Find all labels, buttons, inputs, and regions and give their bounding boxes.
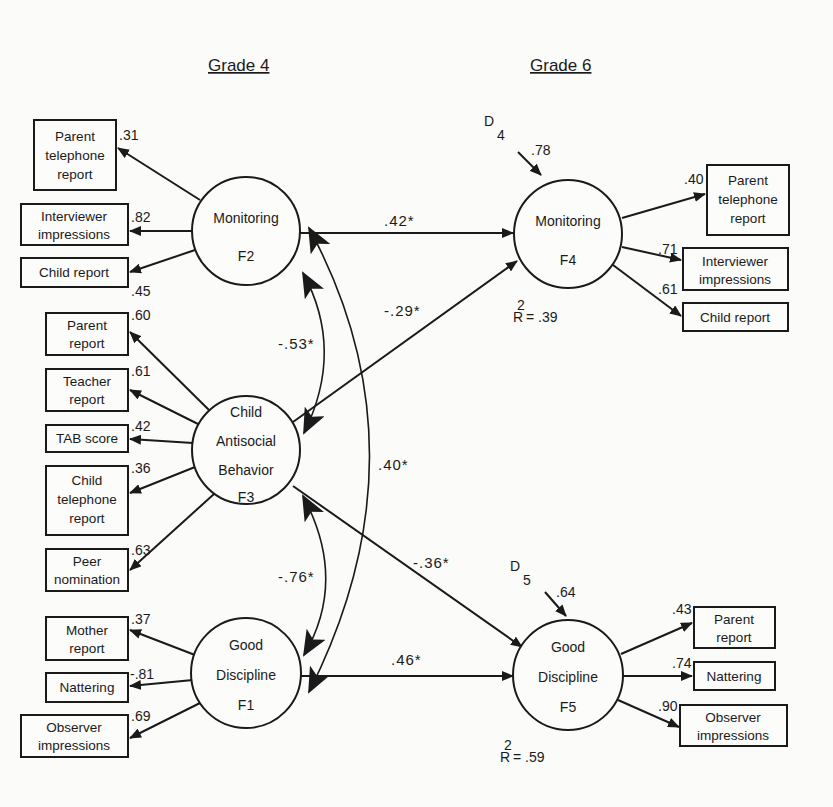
svg-text:.61: .61 <box>658 281 678 297</box>
svg-text:2: 2 <box>504 737 512 753</box>
svg-text:D: D <box>510 558 520 574</box>
indicator-f2-interviewer: Interviewer impressions <box>21 204 128 245</box>
svg-text:Child report: Child report <box>39 265 109 280</box>
header-grade-4: Grade 4 <box>208 56 269 75</box>
svg-text:D: D <box>484 113 494 129</box>
indicator-f5-observer: Observer impressions <box>680 705 787 746</box>
svg-text:4: 4 <box>497 127 505 143</box>
svg-text:report: report <box>716 630 752 645</box>
svg-text:F1: F1 <box>238 697 255 713</box>
svg-text:.74: .74 <box>672 655 692 671</box>
svg-text:.31: .31 <box>119 127 139 143</box>
svg-text:.43: .43 <box>672 601 692 617</box>
svg-text:.36: .36 <box>131 460 151 476</box>
corr-coef-f3-f1: -.76* <box>278 568 315 585</box>
corr-coef-f2-f1: .40* <box>378 456 409 473</box>
indicator-f3-parent-report: Parent report <box>46 313 128 355</box>
correlation-arcs <box>303 228 370 692</box>
svg-text:telephone: telephone <box>57 492 116 507</box>
indicator-f4-parent-telephone: Parent telephone report <box>707 165 789 235</box>
r-squared-f4: R 2 = .39 <box>513 297 558 325</box>
svg-text:.63: .63 <box>131 542 151 558</box>
svg-text:.69: .69 <box>131 708 151 724</box>
svg-text:2: 2 <box>517 297 525 313</box>
svg-text:Interviewer: Interviewer <box>41 209 108 224</box>
svg-text:F5: F5 <box>560 699 577 715</box>
svg-text:impressions: impressions <box>38 738 110 753</box>
svg-text:Monitoring: Monitoring <box>535 213 600 229</box>
svg-text:Parent: Parent <box>67 318 107 333</box>
svg-text:.40: .40 <box>684 171 704 187</box>
svg-text:Child: Child <box>230 404 262 420</box>
svg-text:Child report: Child report <box>700 310 770 325</box>
header-grade-6: Grade 6 <box>530 56 591 75</box>
svg-text:report: report <box>69 336 105 351</box>
structural-paths <box>293 233 522 676</box>
svg-text:Good: Good <box>551 639 585 655</box>
svg-text:report: report <box>730 211 766 226</box>
svg-text:report: report <box>69 511 105 526</box>
svg-text:report: report <box>69 641 105 656</box>
svg-text:Nattering: Nattering <box>707 669 762 684</box>
indicator-f1-mother-report: Mother report <box>46 617 128 660</box>
svg-text:F2: F2 <box>238 248 255 264</box>
svg-text:F3: F3 <box>238 489 255 505</box>
svg-text:Antisocial: Antisocial <box>216 433 276 449</box>
svg-text:Discipline: Discipline <box>538 669 598 685</box>
sem-path-diagram: Grade 4 Grade 6 Parent telephone report … <box>0 0 833 807</box>
svg-text:nomination: nomination <box>54 572 120 587</box>
svg-text:.82: .82 <box>131 209 151 225</box>
r-squared-f5: R 2 = .59 <box>500 737 545 765</box>
svg-text:impressions: impressions <box>38 227 110 242</box>
indicator-f3-peer-nomination: Peer nomination <box>46 549 128 591</box>
svg-text:.42: .42 <box>131 418 151 434</box>
svg-text:Peer: Peer <box>73 554 102 569</box>
svg-text:Discipline: Discipline <box>216 667 276 683</box>
svg-text:-.81: -.81 <box>130 666 154 682</box>
svg-text:telephone: telephone <box>45 148 104 163</box>
svg-text:Mother: Mother <box>66 623 109 638</box>
indicator-f4-interviewer: Interviewer impressions <box>683 248 788 290</box>
svg-text:.37: .37 <box>131 611 151 627</box>
indicator-f3-teacher-report: Teacher report <box>46 369 128 411</box>
indicator-f3-child-telephone: Child telephone report <box>46 466 128 535</box>
svg-text:Teacher: Teacher <box>63 374 112 389</box>
svg-text:Nattering: Nattering <box>60 680 115 695</box>
indicator-f3-tab-score: TAB score <box>46 425 128 452</box>
svg-text:= .59: = .59 <box>513 749 545 765</box>
svg-text:.90: .90 <box>658 698 678 714</box>
corr-coef-f2-f3: -.53* <box>278 335 315 352</box>
svg-text:Parent: Parent <box>714 612 754 627</box>
indicator-f5-parent-report: Parent report <box>694 607 775 648</box>
path-coef-f2-f4: .42* <box>384 212 415 229</box>
latent-f5-discipline: Good Discipline F5 <box>513 620 623 730</box>
svg-text:Behavior: Behavior <box>218 462 274 478</box>
svg-text:.60: .60 <box>131 307 151 323</box>
indicator-f1-observer: Observer impressions <box>21 715 128 757</box>
latent-f4-monitoring: Monitoring F4 <box>514 180 622 288</box>
latent-f2-monitoring: Monitoring F2 <box>192 177 300 285</box>
indicator-f2-child-report: Child report <box>21 258 128 287</box>
svg-text:.64: .64 <box>556 584 576 600</box>
svg-text:Interviewer: Interviewer <box>702 254 769 269</box>
indicator-f5-nattering: Nattering <box>694 662 775 690</box>
path-coef-f3-f4: -.29* <box>384 302 421 319</box>
svg-text:impressions: impressions <box>699 272 771 287</box>
latent-f1-discipline: Good Discipline F1 <box>191 618 301 728</box>
svg-text:telephone: telephone <box>718 192 777 207</box>
svg-text:Observer: Observer <box>705 710 761 725</box>
latent-f3-antisocial: Child Antisocial Behavior F3 <box>192 396 300 505</box>
svg-text:Good: Good <box>229 637 263 653</box>
svg-text:.71: .71 <box>658 241 678 257</box>
svg-text:Child: Child <box>72 473 103 488</box>
svg-text:.45: .45 <box>131 283 151 299</box>
svg-text:TAB score: TAB score <box>56 431 118 446</box>
svg-text:report: report <box>57 167 93 182</box>
path-coef-f3-f5: -.36* <box>413 554 450 571</box>
svg-text:report: report <box>69 392 105 407</box>
svg-text:Observer: Observer <box>46 720 102 735</box>
svg-text:.61: .61 <box>131 363 151 379</box>
indicator-f4-child-report: Child report <box>683 303 788 331</box>
svg-text:.78: .78 <box>531 142 551 158</box>
svg-text:Parent: Parent <box>728 173 768 188</box>
